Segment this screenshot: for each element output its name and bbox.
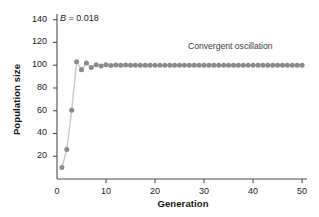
data-point xyxy=(84,60,89,65)
y-tick-label-120: 120 xyxy=(19,36,47,46)
data-point xyxy=(246,63,251,68)
data-point xyxy=(226,63,231,68)
data-point xyxy=(128,63,133,68)
data-point xyxy=(197,63,202,68)
data-point xyxy=(206,63,211,68)
data-point xyxy=(241,63,246,68)
x-tick-label-40: 40 xyxy=(238,186,268,196)
data-point xyxy=(202,63,207,68)
data-point xyxy=(236,63,241,68)
data-point xyxy=(157,63,162,68)
data-point xyxy=(187,63,192,68)
data-point xyxy=(113,62,118,67)
convergent-oscillation-annotation: Convergent oscillation xyxy=(188,41,273,51)
data-point xyxy=(153,63,158,68)
x-axis-title: Generation xyxy=(58,198,308,209)
x-tick-label-20: 20 xyxy=(140,186,170,196)
plot-area xyxy=(0,0,319,217)
data-point xyxy=(59,165,64,170)
data-point xyxy=(231,63,236,68)
data-point xyxy=(138,63,143,68)
x-tick-label-0: 0 xyxy=(42,186,72,196)
data-point xyxy=(192,63,197,68)
data-point xyxy=(270,63,275,68)
data-point xyxy=(211,63,216,68)
data-point xyxy=(182,63,187,68)
data-point xyxy=(108,63,113,68)
data-point xyxy=(221,63,226,68)
data-points xyxy=(59,59,304,170)
data-point xyxy=(123,63,128,68)
data-point xyxy=(94,62,99,67)
data-point xyxy=(143,63,148,68)
data-point xyxy=(118,63,123,68)
data-point xyxy=(275,63,280,68)
figure-container: Population size Generation B = 0.018 Con… xyxy=(0,0,319,217)
data-point xyxy=(89,65,94,70)
data-point xyxy=(265,63,270,68)
data-point xyxy=(148,63,153,68)
x-tick-label-50: 50 xyxy=(287,186,317,196)
y-tick-label-60: 60 xyxy=(19,105,47,115)
y-tick-label-80: 80 xyxy=(19,82,47,92)
x-tick-label-30: 30 xyxy=(189,186,219,196)
data-point xyxy=(74,59,79,64)
data-point xyxy=(99,64,104,69)
data-point xyxy=(69,108,74,113)
data-point xyxy=(255,63,260,68)
data-point xyxy=(133,63,138,68)
data-point xyxy=(79,67,84,72)
y-axis-title: Population size xyxy=(11,40,22,160)
data-point xyxy=(172,63,177,68)
data-point xyxy=(162,63,167,68)
data-line xyxy=(62,62,302,168)
data-point xyxy=(280,63,285,68)
data-point xyxy=(251,63,256,68)
b-value: = 0.018 xyxy=(66,13,99,23)
x-tick-label-10: 10 xyxy=(91,186,121,196)
data-point xyxy=(177,63,182,68)
data-point xyxy=(64,147,69,152)
population-line xyxy=(62,62,302,168)
data-point xyxy=(167,63,172,68)
data-point xyxy=(295,63,300,68)
data-point xyxy=(260,63,265,68)
axes-group xyxy=(53,14,307,183)
data-point xyxy=(216,63,221,68)
data-point xyxy=(104,62,109,67)
y-tick-label-40: 40 xyxy=(19,127,47,137)
data-point xyxy=(300,63,305,68)
y-tick-label-140: 140 xyxy=(19,14,47,24)
data-point xyxy=(290,63,295,68)
y-tick-label-100: 100 xyxy=(19,59,47,69)
data-point xyxy=(285,63,290,68)
y-tick-label-20: 20 xyxy=(19,150,47,160)
b-parameter-annotation: B = 0.018 xyxy=(60,13,99,23)
